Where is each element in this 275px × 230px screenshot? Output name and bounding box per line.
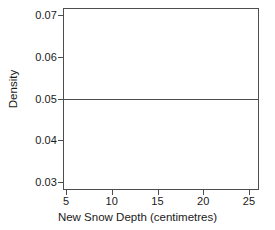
plot-data-area [63,8,259,190]
x-tick-label-25: 25 [234,196,264,207]
y-tick-mark-0.05 [58,99,63,100]
density-histogram-chart: 0.07 0.06 0.05 0.04 0.03 5 10 15 20 25 N… [0,0,275,230]
y-tick-mark-0.03 [58,182,63,183]
y-tick-label-0.06: 0.06 [35,52,57,63]
y-tick-mark-0.07 [58,15,63,16]
y-tick-label-0.07: 0.07 [35,10,57,21]
y-tick-mark-0.06 [58,57,63,58]
y-tick-label-0.03: 0.03 [35,177,57,188]
x-tick-label-20: 20 [188,196,218,207]
x-tick-label-15: 15 [143,196,173,207]
histogram-bar [63,99,259,190]
y-tick-label-0.04: 0.04 [35,135,57,146]
y-tick-label-0.05: 0.05 [35,94,57,105]
x-tick-label-5: 5 [51,196,81,207]
x-tick-label-10: 10 [97,196,127,207]
y-tick-mark-0.04 [58,140,63,141]
y-axis-title: Density [7,54,19,124]
x-axis-title: New Snow Depth (centimetres) [0,211,275,223]
